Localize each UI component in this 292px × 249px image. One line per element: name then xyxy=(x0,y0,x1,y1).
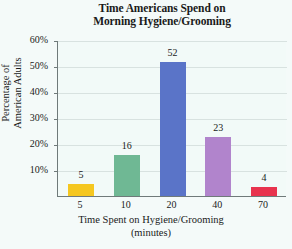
y-axis-tick-label: 50% xyxy=(8,60,48,71)
x-axis-tick-label: 40 xyxy=(197,199,237,210)
y-axis-tick-mark xyxy=(54,145,58,146)
bar-fill xyxy=(205,137,231,197)
bar-value-label: 16 xyxy=(122,140,132,151)
bar: 16 xyxy=(114,155,140,197)
bar-value-label: 4 xyxy=(262,172,267,183)
y-axis-tick-mark xyxy=(54,93,58,94)
y-axis-tick-label: 20% xyxy=(8,138,48,149)
bar-fill xyxy=(160,62,186,197)
y-axis-tick-mark xyxy=(54,41,58,42)
y-axis-tick-label: 10% xyxy=(8,164,48,175)
x-axis-tick-label: 10 xyxy=(106,199,146,210)
x-axis-tick-label: 20 xyxy=(152,199,192,210)
plot-area: 60%50%40%30%20%10%51652234 xyxy=(57,41,286,197)
x-axis-title: Time Spent on Hygiene/Grooming (minutes) xyxy=(20,214,282,239)
chart-title: Time Americans Spend on Morning Hygiene/… xyxy=(40,2,284,28)
bar: 23 xyxy=(205,137,231,197)
bar-fill xyxy=(114,155,140,197)
chart-title-line-2: Morning Hygiene/Grooming xyxy=(40,15,284,28)
bar-value-label: 23 xyxy=(213,122,223,133)
bar-value-label: 52 xyxy=(168,47,178,58)
y-axis-tick-label: 30% xyxy=(8,112,48,123)
x-axis-tick-label: 5 xyxy=(60,199,100,210)
bar: 52 xyxy=(160,62,186,197)
x-axis-tick-label: 70 xyxy=(243,199,283,210)
y-axis-tick-mark xyxy=(54,171,58,172)
y-axis-tick-label: 60% xyxy=(8,34,48,45)
gridline xyxy=(58,41,287,42)
y-axis-tick-label: 40% xyxy=(8,86,48,97)
y-axis-tick-mark xyxy=(54,67,58,68)
y-axis-tick-mark xyxy=(54,119,58,120)
x-axis-title-line-1: Time Spent on Hygiene/Grooming xyxy=(78,214,224,225)
x-axis-title-line-2: (minutes) xyxy=(20,227,282,240)
chart-title-line-1: Time Americans Spend on xyxy=(99,2,226,14)
bar-chart: Time Americans Spend on Morning Hygiene/… xyxy=(0,0,292,249)
x-axis-line xyxy=(57,196,286,197)
bar-value-label: 5 xyxy=(78,169,83,180)
